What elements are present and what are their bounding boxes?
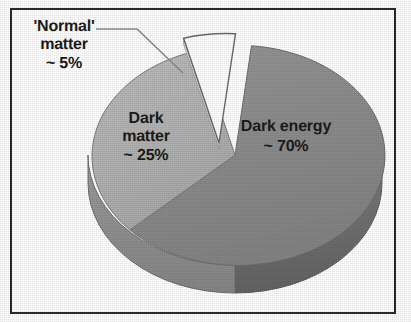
slice-label-dark-matter: Dark matter ~ 25% [100, 110, 192, 165]
slice-label-dark-energy-line1: Dark energy [241, 118, 331, 135]
slice-label-dark-energy-value: ~ 70% [222, 138, 350, 156]
slice-label-dark-matter-value: ~ 25% [100, 147, 192, 165]
slice-label-normal-matter-line2: matter [18, 36, 110, 54]
slice-label-dark-energy: Dark energy ~ 70% [222, 118, 350, 156]
pie-chart-figure: 'Normal' matter ~ 5% Dark matter ~ 25% D… [0, 0, 411, 322]
slice-label-dark-matter-line1: Dark [129, 110, 164, 127]
slice-label-normal-matter-value: ~ 5% [18, 55, 110, 73]
slice-label-normal-matter: 'Normal' matter ~ 5% [18, 18, 110, 73]
slice-label-normal-matter-line1: 'Normal' [33, 18, 94, 35]
slice-label-dark-matter-line2: matter [100, 128, 192, 146]
